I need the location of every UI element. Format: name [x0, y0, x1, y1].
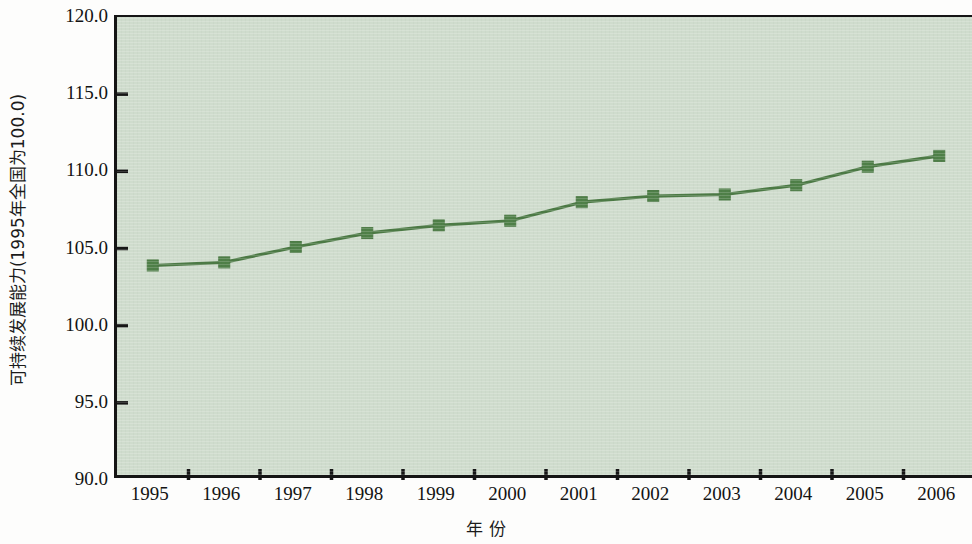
data-point-marker	[505, 215, 516, 226]
x-tick-label: 2003	[682, 484, 762, 505]
y-tick-label: 115.0	[42, 83, 108, 102]
x-tick-label: 2004	[753, 484, 833, 505]
x-axis-title: 年 份	[0, 515, 972, 540]
y-tick-label: 95.0	[42, 392, 108, 411]
x-tick-label: 2002	[610, 484, 690, 505]
x-tick-label: 1995	[110, 484, 190, 505]
y-tick-label: 110.0	[42, 160, 108, 179]
chart-figure: 可持续发展能力(1995年全国为100.0) 120.0115.0110.010…	[0, 0, 972, 544]
x-tick-label: 1996	[181, 484, 261, 505]
y-axis-tick-labels: 120.0115.0110.0105.0100.095.090.0	[36, 0, 108, 544]
data-point-marker	[362, 228, 373, 239]
x-tick-label: 2001	[539, 484, 619, 505]
data-point-marker	[576, 197, 587, 208]
data-point-marker	[719, 189, 730, 200]
x-tick-label: 1999	[396, 484, 476, 505]
y-tick-label: 105.0	[42, 238, 108, 257]
x-tick-label: 2005	[825, 484, 905, 505]
data-point-marker	[290, 241, 301, 252]
data-line	[153, 156, 940, 266]
y-axis-title: 可持续发展能力(1995年全国为100.0)	[0, 0, 32, 480]
x-tick-label: 2000	[467, 484, 547, 505]
x-tick-label: 2006	[896, 484, 972, 505]
data-point-marker	[648, 191, 659, 202]
data-point-marker	[862, 161, 873, 172]
line-chart-svg	[117, 17, 972, 480]
x-axis-tick-labels: 1995199619971998199920002001200220032004…	[114, 484, 972, 512]
data-point-marker	[791, 180, 802, 191]
data-point-marker	[934, 150, 945, 161]
y-tick-label: 90.0	[42, 469, 108, 488]
data-point-marker	[147, 260, 158, 271]
x-tick-label: 1997	[253, 484, 333, 505]
x-tick-label: 1998	[324, 484, 404, 505]
y-tick-label: 120.0	[42, 6, 108, 25]
data-point-marker	[219, 257, 230, 268]
plot-area	[114, 15, 972, 478]
y-tick-label: 100.0	[42, 315, 108, 334]
data-point-marker	[433, 220, 444, 231]
